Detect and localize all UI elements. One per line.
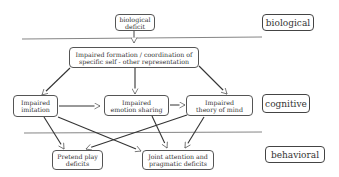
node-self-other-representation: Impaired formation / coordination of spe… xyxy=(69,47,199,68)
node-impaired-imitation: Impaired imitation xyxy=(13,95,58,117)
node-line: theory of mind xyxy=(196,106,243,113)
node-line: imitation xyxy=(21,106,50,113)
node-line: deficit xyxy=(125,23,145,30)
level-text: cognitive xyxy=(265,99,307,109)
separator-biological-cognitive xyxy=(22,37,262,39)
node-line: Impaired xyxy=(205,99,234,106)
node-line: emotion sharing xyxy=(110,106,162,113)
node-line: specific self - other representation xyxy=(79,58,189,65)
node-impaired-emotion-sharing: Impaired emotion sharing xyxy=(104,95,169,116)
node-line: Pretend play xyxy=(57,153,98,160)
node-line: pragmatic deficits xyxy=(149,160,207,167)
level-label-cognitive: cognitive xyxy=(262,94,310,113)
level-label-biological: biological xyxy=(262,14,314,31)
node-impaired-theory-of-mind: Impaired theory of mind xyxy=(186,95,253,116)
node-line: Impaired formation / coordination of xyxy=(76,51,193,58)
arrow-selfother-to-imitation xyxy=(42,68,70,95)
node-line: biological xyxy=(120,16,151,23)
node-line: Impaired xyxy=(21,99,50,106)
node-line: Impaired xyxy=(122,99,151,106)
arrow-selfother-to-tom xyxy=(199,66,227,94)
node-biological-deficit: biological deficit xyxy=(115,14,155,31)
node-pretend-play-deficits: Pretend play deficits xyxy=(52,150,103,170)
separator-cognitive-behavioral xyxy=(24,132,262,133)
level-label-behavioral: behavioral xyxy=(265,146,325,163)
level-text: behavioral xyxy=(271,150,319,160)
arrow-imitation-to-joint xyxy=(58,117,141,151)
node-joint-attention-pragmatic-deficits: Joint attention and pragmatic deficits xyxy=(142,150,214,170)
node-line: Joint attention and xyxy=(148,153,208,160)
node-line: deficits xyxy=(66,160,89,167)
level-text: biological xyxy=(266,18,310,28)
